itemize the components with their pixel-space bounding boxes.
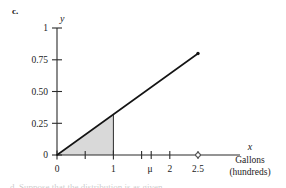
chart-canvas: 0 0.25 0.50 0.75 1 0 1 μ 2 2.5 y x Gallo… (0, 0, 286, 188)
y-tick-label-0.50: 0.50 (31, 87, 48, 97)
figure-container: c. 0 0.25 0.50 0.75 1 (0, 0, 286, 188)
line-endpoint-dot (196, 52, 199, 55)
density-line (57, 54, 198, 156)
open-circle-endpoint (196, 153, 201, 158)
x-tick-label-2: 2 (167, 164, 172, 174)
x-axis-label: x (247, 141, 253, 152)
x-tick-label-mu: μ (147, 164, 152, 174)
page-bleed-text: d. Suppose that the distribution is as g… (10, 183, 260, 188)
x-axis-caption-line1: Gallons (235, 155, 265, 165)
x-tick-label-0: 0 (55, 164, 60, 174)
x-tick-label-2.5: 2.5 (192, 164, 204, 174)
y-tick-label-1: 1 (43, 23, 48, 33)
x-tick-label-1: 1 (111, 164, 116, 174)
x-axis-caption-line2: (hundreds) (229, 167, 270, 178)
y-tick-label-0.75: 0.75 (31, 55, 48, 65)
y-tick-label-0: 0 (43, 150, 48, 160)
y-axis-label: y (59, 13, 65, 24)
y-tick-label-0.25: 0.25 (31, 119, 48, 129)
